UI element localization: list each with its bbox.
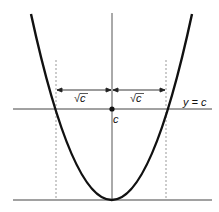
label-c: c [113,113,119,125]
parabola-diagram: √c √c c y = c [0,0,219,212]
label-y-equals-c: y = c [182,96,207,108]
intercept-dot [109,106,114,111]
